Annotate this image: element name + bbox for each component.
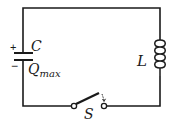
switch-label: S (84, 106, 94, 122)
inductor: L (136, 40, 165, 76)
switch-contact-right (101, 103, 106, 108)
plus-sign: + (10, 41, 16, 53)
wire-right-bottom (107, 76, 160, 106)
minus-sign: − (11, 59, 18, 73)
capacitor: + − C Qmax (10, 38, 61, 79)
capacitor-label: C (31, 38, 42, 54)
wire-top (23, 8, 160, 53)
charge-label: Qmax (28, 61, 61, 79)
switch-contact-left (71, 103, 76, 108)
lc-circuit-diagram: + − C Qmax L S (0, 0, 175, 123)
inductor-coil (155, 40, 166, 76)
switch[interactable]: S (71, 93, 106, 122)
inductor-label: L (136, 52, 147, 70)
switch-lever (76, 93, 99, 104)
